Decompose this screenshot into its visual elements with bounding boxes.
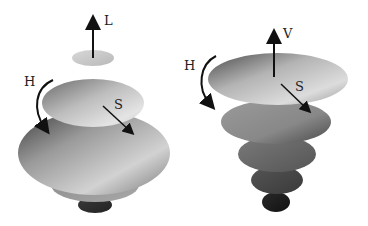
lightness-label: L bbox=[104, 13, 113, 28]
hsv-disc-2 bbox=[221, 100, 331, 144]
hsv-disc-5 bbox=[262, 192, 290, 212]
hue-label-right: H bbox=[184, 58, 195, 73]
hls-model: L H S bbox=[18, 13, 170, 213]
hls-hs-disc bbox=[42, 79, 144, 127]
hue-label-left: H bbox=[24, 74, 35, 89]
hsv-model: V H S bbox=[184, 26, 348, 212]
hsv-top-disc bbox=[208, 53, 348, 105]
saturation-label-right: S bbox=[295, 79, 304, 94]
saturation-label-left: S bbox=[114, 97, 123, 112]
color-space-diagram: L H S V H S bbox=[0, 0, 368, 226]
value-label: V bbox=[282, 26, 293, 41]
